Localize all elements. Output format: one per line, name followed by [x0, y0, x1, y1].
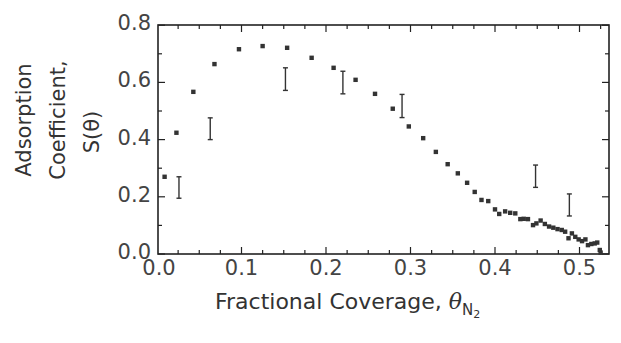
- data-point: [373, 92, 377, 96]
- data-point: [508, 211, 512, 215]
- data-point: [331, 66, 335, 70]
- data-point: [212, 62, 216, 66]
- data-point: [445, 162, 449, 166]
- data-point: [353, 78, 357, 82]
- error-bar: [283, 68, 288, 91]
- data-point: [598, 250, 602, 254]
- x-tick-label: 0.5: [550, 256, 610, 280]
- data-point: [191, 90, 195, 94]
- data-point: [538, 218, 542, 222]
- data-point: [237, 47, 241, 51]
- data-point: [503, 209, 507, 213]
- data-point: [473, 190, 477, 194]
- data-point: [595, 240, 599, 244]
- error-bars: [176, 68, 571, 216]
- data-point: [391, 107, 395, 111]
- x-axis-sub-subscript: 2: [473, 308, 480, 321]
- y-tick-label: 0.2: [103, 183, 151, 207]
- data-point: [486, 199, 490, 203]
- data-point: [543, 222, 547, 226]
- data-point: [309, 56, 313, 60]
- data-point: [566, 236, 570, 240]
- data-point: [456, 171, 460, 175]
- data-point: [513, 211, 517, 215]
- y-tick-label: 0.4: [103, 126, 151, 150]
- data-point: [555, 227, 559, 231]
- data-point: [434, 150, 438, 154]
- error-bar: [176, 177, 181, 198]
- data-point: [465, 181, 469, 185]
- error-bar: [208, 118, 213, 140]
- data-point: [162, 175, 166, 179]
- data-point: [522, 217, 526, 221]
- error-bar: [340, 71, 345, 94]
- data-point: [526, 217, 530, 221]
- data-point: [534, 221, 538, 225]
- x-tick-label: 0.3: [381, 256, 441, 280]
- x-tick-label: 0.0: [129, 256, 189, 280]
- x-axis-label-text: Fractional Coverage,: [215, 289, 442, 314]
- data-point: [407, 124, 411, 128]
- data-point: [260, 44, 264, 48]
- error-bar: [533, 165, 538, 187]
- data-point: [551, 225, 555, 229]
- error-bar: [567, 194, 572, 216]
- data-points: [162, 44, 602, 255]
- data-point: [547, 224, 551, 228]
- data-point: [174, 131, 178, 135]
- data-point: [497, 212, 501, 216]
- x-tick-label: 0.2: [296, 256, 356, 280]
- data-point: [493, 207, 497, 211]
- error-bar: [400, 94, 405, 117]
- data-point: [479, 198, 483, 202]
- y-tick-label: 0.6: [103, 68, 151, 92]
- x-axis-subscript: N: [462, 301, 473, 319]
- y-tick-label: 0.8: [103, 11, 151, 35]
- data-point: [285, 46, 289, 50]
- x-tick-label: 0.4: [465, 256, 525, 280]
- data-point: [583, 237, 587, 241]
- data-point: [421, 136, 425, 140]
- x-tick-label: 0.1: [212, 256, 272, 280]
- x-axis-theta-symbol: θ: [449, 289, 462, 314]
- x-axis-label: Fractional Coverage, θN2: [215, 289, 480, 321]
- data-point: [563, 229, 567, 233]
- chart-root: Adsorption Coefficient, S(θ) 0.00.20.40.…: [0, 0, 621, 343]
